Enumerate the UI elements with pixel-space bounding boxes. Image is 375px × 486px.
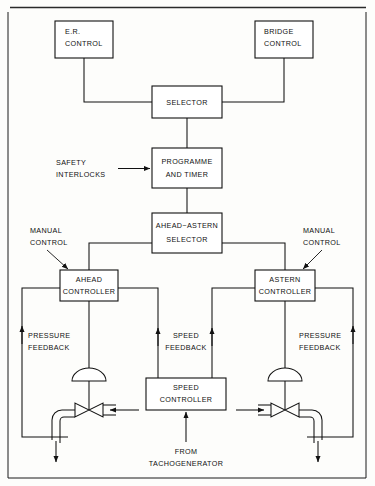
manual-control-right-label-line1: MANUAL (303, 226, 335, 235)
speed-controller-label-line2: CONTROLLER (160, 395, 213, 404)
pipe-right-inner (299, 417, 314, 443)
link-selector-to-astern-controller (222, 243, 285, 270)
loop-pressure-feedback-left (22, 288, 68, 437)
box-ahead-astern-selector[interactable] (152, 213, 222, 253)
arrow-manual-control-right (303, 250, 322, 269)
arrow-manual-control-left (47, 250, 68, 269)
manual-control-left-label-line2: CONTROL (30, 238, 68, 247)
box-programme-and-timer[interactable] (152, 148, 222, 188)
pressure-feedback-right-label-line1: PRESSURE (299, 331, 341, 340)
speed-feedback-label-line1: SPEED (173, 331, 199, 340)
bridge-control-label-line2: CONTROL (264, 39, 302, 48)
safety-interlocks-label-line1: SAFETY (56, 158, 86, 167)
actuator-dome-right (268, 368, 302, 381)
ahead-astern-label-line2: SELECTOR (166, 235, 207, 244)
programme-label-line1: PROGRAMME (161, 157, 212, 166)
safety-interlocks-label-line2: INTERLOCKS (56, 170, 105, 179)
bridge-control-label-line1: BRIDGE (264, 27, 294, 36)
loop-speed-feedback-left (118, 288, 158, 378)
diagram-canvas: E.R. CONTROL BRIDGE CONTROL SELECTOR PRO… (0, 0, 375, 486)
link-er-to-selector (84, 58, 152, 102)
speed-controller-label-line1: SPEED (173, 383, 199, 392)
ahead-astern-label-line1: AHEAD−ASTERN (156, 221, 218, 230)
loop-pressure-feedback-right (307, 288, 353, 437)
selector-label: SELECTOR (166, 98, 207, 107)
tachogenerator-label-line1: FROM (175, 447, 198, 456)
manual-control-left-label-line1: MANUAL (30, 226, 62, 235)
astern-controller-label-line2: CONTROLLER (259, 287, 312, 296)
pressure-feedback-left-label-line2: FEEDBACK (28, 343, 70, 352)
er-control-label-line2: CONTROL (65, 39, 103, 48)
actuator-dome-left (72, 368, 106, 381)
ahead-controller-label-line1: AHEAD (76, 275, 103, 284)
pressure-feedback-left-label-line1: PRESSURE (28, 331, 70, 340)
er-control-label-line1: E.R. (65, 27, 80, 36)
speed-feedback-label-line2: FEEDBACK (165, 343, 207, 352)
programme-label-line2: AND TIMER (166, 170, 209, 179)
pipe-left-inner (60, 417, 75, 443)
block-diagram-svg: E.R. CONTROL BRIDGE CONTROL SELECTOR PRO… (0, 0, 375, 486)
pressure-feedback-right-label-line2: FEEDBACK (299, 343, 341, 352)
loop-speed-feedback-right (212, 288, 255, 378)
link-selector-to-ahead-controller (89, 243, 152, 270)
astern-controller-label-line1: ASTERN (269, 275, 300, 284)
manual-control-right-label-line2: CONTROL (303, 238, 341, 247)
link-bridge-to-selector (222, 58, 284, 102)
pipe-right-outer (299, 410, 322, 440)
ahead-controller-label-line2: CONTROLLER (63, 287, 116, 296)
tachogenerator-label-line2: TACHOGENERATOR (149, 459, 223, 468)
pipe-left-outer (52, 410, 75, 440)
